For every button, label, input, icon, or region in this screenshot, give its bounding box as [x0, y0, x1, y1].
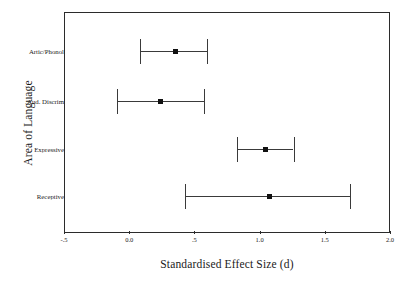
x-axis-tick-mark	[64, 231, 65, 234]
x-axis-tick-label: 2.0	[370, 236, 409, 243]
y-axis-title: Area of Language	[22, 33, 34, 213]
confidence-interval-lower-cap	[237, 137, 238, 162]
x-axis-tick-label: .5	[174, 236, 214, 243]
x-axis-tick-mark	[260, 231, 261, 234]
x-axis-tick-label: 0.0	[109, 236, 149, 243]
confidence-interval-lower-cap	[117, 89, 118, 114]
confidence-interval-upper-cap	[350, 184, 351, 209]
x-axis-tick-label: 1.5	[305, 236, 345, 243]
confidence-interval-upper-cap	[204, 89, 205, 114]
x-axis-tick-label: 1.0	[240, 236, 280, 243]
effect-size-point-marker	[158, 99, 163, 104]
x-axis-tick-mark	[129, 231, 130, 234]
effect-size-point-marker	[263, 147, 268, 152]
x-axis-tick-mark	[390, 231, 391, 234]
confidence-interval-upper-cap	[294, 137, 295, 162]
confidence-interval-lower-cap	[185, 184, 186, 209]
x-axis-title: Standardised Effect Size (d)	[64, 258, 390, 270]
confidence-interval-upper-cap	[207, 39, 208, 64]
confidence-interval-lower-cap	[140, 39, 141, 64]
effect-size-point-marker	[173, 49, 178, 54]
x-axis-tick-mark	[325, 231, 326, 234]
effect-size-point-marker	[267, 194, 272, 199]
forest-plot-chart: -.50.0.51.01.52.0 Artic/PhonolAud. Discr…	[0, 0, 409, 286]
x-axis-tick-mark	[194, 231, 195, 234]
plot-area-frame	[64, 12, 390, 233]
